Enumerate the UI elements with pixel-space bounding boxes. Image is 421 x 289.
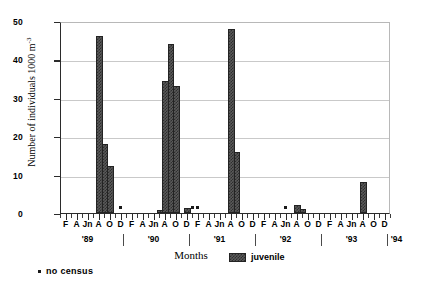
x-axis-tick-mark [324,214,325,218]
x-axis-tick-mark [126,214,127,218]
x-axis-year-label: '92 [273,234,299,244]
year-separator [321,234,322,246]
x-axis-month-label: D [377,219,393,229]
bar-juvenile [300,209,306,213]
y-axis-tick-label: 40 [0,55,23,65]
x-axis-tick-mark [93,214,94,218]
x-axis-tick-mark [60,214,61,218]
x-axis-tick-mark [258,214,259,218]
y-axis-tick-label: 50 [0,17,23,27]
chart-figure: Number of individuals 1000 m-3 Coris jul… [0,0,421,289]
plot-area [60,22,390,214]
no-census-marker [191,206,194,209]
x-axis-year-label: '89 [75,234,101,244]
x-axis-tick-mark [148,214,149,218]
x-axis-tick-mark [181,214,182,218]
y-axis-tick-mark [54,99,60,100]
x-axis-tick-mark [346,214,347,218]
y-axis-tick-mark [54,60,60,61]
x-axis-tick-mark [302,214,303,218]
x-axis-tick-mark [192,214,193,218]
legend-label-juvenile: juvenile [251,252,285,262]
x-axis-tick-mark [82,214,83,218]
year-separator [189,234,190,246]
bar-juvenile [173,86,179,213]
x-axis-year-label: '90 [141,234,167,244]
x-axis-tick-mark [115,214,116,218]
legend-swatch-juvenile [229,253,246,262]
y-axis-tick-label: 10 [0,171,23,181]
x-axis-tick-mark [357,214,358,218]
footnote-label: no census [46,266,93,276]
x-axis-tick-mark [170,214,171,218]
bar-juvenile [234,152,240,213]
y-axis-title: Number of individuals 1000 m-3 [25,7,37,197]
y-axis-tick-mark [54,137,60,138]
year-separator [255,234,256,246]
no-census-marker [284,206,287,209]
x-axis-tick-mark [390,214,391,218]
x-axis-year-label: '93 [339,234,365,244]
x-axis-tick-mark [313,214,314,218]
x-axis-tick-mark [335,214,336,218]
bar-juvenile [360,182,366,213]
year-separator [123,234,124,246]
x-axis-tick-mark [379,214,380,218]
no-census-marker [119,206,122,209]
x-axis-tick-mark [203,214,204,218]
x-axis-tick-mark [159,214,160,218]
y-axis-title-text: Number of individuals 1000 m [26,43,37,166]
x-axis-year-label: '91 [207,234,233,244]
y-axis-tick-label: 30 [0,94,23,104]
x-axis-tick-mark [247,214,248,218]
gridline [61,138,389,139]
x-axis-tick-mark [214,214,215,218]
footnote-no-census: no census [38,266,93,276]
x-axis-tick-mark [236,214,237,218]
x-axis-tick-mark [269,214,270,218]
x-axis-tick-mark [291,214,292,218]
legend: juvenile [229,252,285,262]
y-axis-tick-label: 0 [0,209,23,219]
y-axis-tick-mark [54,22,60,23]
y-axis-tick-mark [54,176,60,177]
y-axis-tick-label: 20 [0,132,23,142]
no-census-marker [196,206,199,209]
no-census-dot-icon [38,270,41,273]
x-axis-tick-mark [280,214,281,218]
x-axis-tick-mark [104,214,105,218]
x-axis-tick-mark [368,214,369,218]
gridline [61,100,389,101]
x-axis-year-label: '94 [384,234,410,244]
x-axis-tick-mark [225,214,226,218]
gridline [61,61,389,62]
x-axis-tick-mark [71,214,72,218]
bar-juvenile [107,166,113,213]
x-axis-tick-mark [137,214,138,218]
y-axis-title-exponent: -3 [25,38,33,44]
